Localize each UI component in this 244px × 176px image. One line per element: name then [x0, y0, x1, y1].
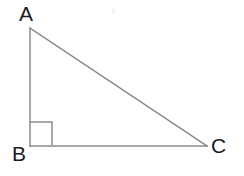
vertex-label-b: B: [12, 143, 26, 164]
right-angle-marker-icon: [30, 122, 52, 145]
geometry-figure: A B C: [0, 0, 244, 176]
vertex-label-a: A: [19, 3, 33, 24]
vertex-label-c: C: [211, 135, 226, 156]
image-artifact-speck: [112, 9, 115, 13]
edge-ac-hypotenuse: [30, 28, 207, 146]
triangle-drawing: [0, 0, 244, 176]
